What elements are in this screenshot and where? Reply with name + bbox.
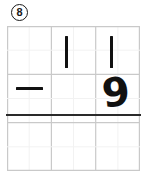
subtrahend-digit-nine: 9 (100, 71, 132, 114)
worksheet-page: 8 (0, 0, 147, 178)
answer-line (6, 114, 141, 116)
minus-operator-icon (16, 87, 43, 90)
minuend-digit-one-ones (110, 36, 113, 68)
problem-number-label: 8 (16, 7, 22, 18)
grid-paper-area: 9 (7, 26, 140, 171)
handwriting-layer: 9 (7, 26, 140, 171)
minuend-digit-one-tens (65, 36, 68, 68)
problem-number-badge: 8 (11, 4, 28, 21)
